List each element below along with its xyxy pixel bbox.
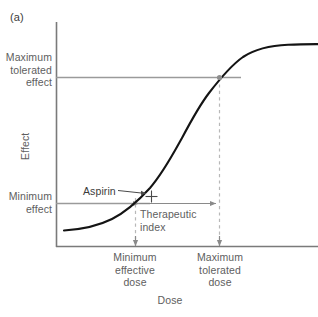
max-tolerated-intersection-marker xyxy=(217,75,222,80)
dose-response-curve xyxy=(64,44,318,230)
x-axis-title: Dose xyxy=(130,294,210,307)
panel-label: (a) xyxy=(10,11,24,24)
y-tick-label-maximum-tolerated-effect: Maximum tolerated effect xyxy=(0,51,52,89)
annotation-therapeutic-index: Therapeutic index xyxy=(140,208,220,233)
annotation-aspirin: Aspirin xyxy=(83,185,133,198)
x-tick-label-minimum-effective-dose: Minimum effective dose xyxy=(95,251,175,289)
figure-panel: (a) Maximum tolerated effect Minimum eff… xyxy=(0,0,318,317)
x-tick-label-maximum-tolerated-dose: Maximum tolerated dose xyxy=(182,251,258,289)
y-axis-title: Effect xyxy=(19,111,32,181)
y-tick-label-minimum-effect: Minimum effect xyxy=(0,190,52,215)
